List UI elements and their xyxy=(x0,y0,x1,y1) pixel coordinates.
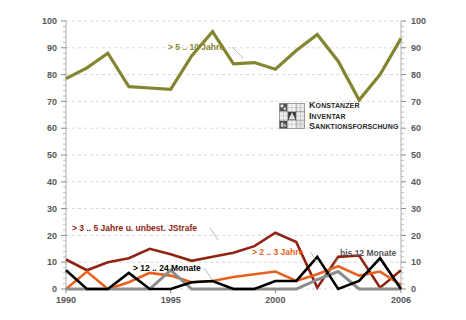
y-tick-label-left: 50 xyxy=(47,150,57,160)
series-annotation-label: > 2 .. 3 Jahre xyxy=(252,247,304,257)
y-tick-label-left: 40 xyxy=(47,177,57,187)
logo-text-block: Konstanzer Inventar Sanktionsforschung xyxy=(309,100,398,132)
konstanzer-inventar-logo: Konstanzer Inventar Sanktionsforschung xyxy=(279,100,398,132)
x-tick-label: 1990 xyxy=(56,295,76,305)
y-tick-label-right: 20 xyxy=(411,231,421,241)
x-tick-label: 2000 xyxy=(265,295,285,305)
y-tick-label-left: 80 xyxy=(47,70,57,80)
logo-line-sanktionsforschung: Sanktionsforschung xyxy=(309,121,398,132)
annotation-leader xyxy=(204,268,212,279)
y-tick-label-right: 90 xyxy=(411,43,421,53)
annotation-leader xyxy=(210,228,218,240)
y-axis-right-labels: 0102030405060708090100 xyxy=(411,16,426,294)
y-tick-label-left: 70 xyxy=(47,97,57,107)
annotation-leader-lines xyxy=(204,47,338,279)
chart-container: 0102030405060708090100 01020304050607080… xyxy=(0,0,466,320)
logo-line-konstanzer: Konstanzer xyxy=(309,100,398,111)
logo-line-inventar: Inventar xyxy=(309,111,398,122)
y-tick-label-left: 60 xyxy=(47,123,57,133)
y-axis-left-labels: 0102030405060708090100 xyxy=(42,16,57,294)
y-tick-label-right: 50 xyxy=(411,150,421,160)
y-tick-label-left: 90 xyxy=(47,43,57,53)
series-annotation-label: > 5 .. 10 Jahre xyxy=(168,42,224,52)
konstanzer-inventar-logo-mark xyxy=(279,103,305,129)
series-annotation-label: > 12 .. 24 Monate xyxy=(133,263,201,273)
y-tick-label-right: 0 xyxy=(411,284,416,294)
y-tick-label-right: 30 xyxy=(411,204,421,214)
y-tick-label-left: 100 xyxy=(42,16,57,26)
y-tick-label-right: 10 xyxy=(411,257,421,267)
y-tick-label-left: 10 xyxy=(47,257,57,267)
y-tick-label-left: 0 xyxy=(52,284,57,294)
y-tick-label-right: 40 xyxy=(411,177,421,187)
y-tick-label-right: 80 xyxy=(411,70,421,80)
series-annotation-label: bis 12 Monate xyxy=(340,248,396,258)
series-line xyxy=(66,266,401,289)
x-axis-labels: 1990199520002006 xyxy=(56,295,411,305)
y-tick-label-left: 20 xyxy=(47,231,57,241)
x-tick-label: 2006 xyxy=(391,295,411,305)
y-tick-label-right: 100 xyxy=(411,16,426,26)
series-line xyxy=(66,32,401,100)
line-chart: 0102030405060708090100 01020304050607080… xyxy=(0,0,466,320)
y-tick-label-left: 30 xyxy=(47,204,57,214)
series-annotation-label: > 3 .. 5 Jahre u. unbest. JStrafe xyxy=(72,223,197,233)
y-tick-label-right: 60 xyxy=(411,123,421,133)
series-line xyxy=(66,233,401,288)
annotation-leader xyxy=(232,47,243,58)
x-tick-label: 1995 xyxy=(161,295,181,305)
y-tick-label-right: 70 xyxy=(411,97,421,107)
